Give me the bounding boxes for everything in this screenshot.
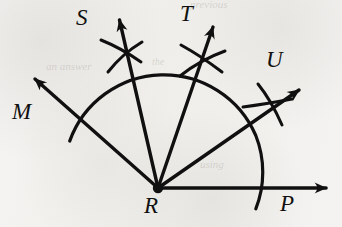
ray-M-line [35,79,158,188]
label-U: U [266,48,283,71]
construction-arc-u-right [243,99,292,107]
label-M: M [12,100,31,123]
construction-arc-t-left [181,45,222,72]
label-T: T [180,2,193,25]
vertex-point-r [153,183,163,193]
ray-T-line [158,27,213,188]
figure-canvas: previous an answer the using [0,0,342,227]
label-R: R [144,194,158,217]
ray-U-line [158,90,299,188]
label-P: P [280,192,294,215]
label-S: S [76,6,88,29]
